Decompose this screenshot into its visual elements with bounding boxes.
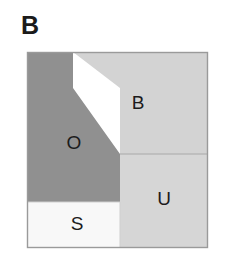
figure-panel: B B O U S — [0, 0, 225, 272]
region-label-b: B — [132, 92, 145, 113]
region-label-u: U — [157, 188, 171, 209]
region-label-s: S — [71, 213, 84, 234]
region-label-o: O — [67, 132, 82, 153]
region-diagram: B O U S — [0, 0, 225, 272]
